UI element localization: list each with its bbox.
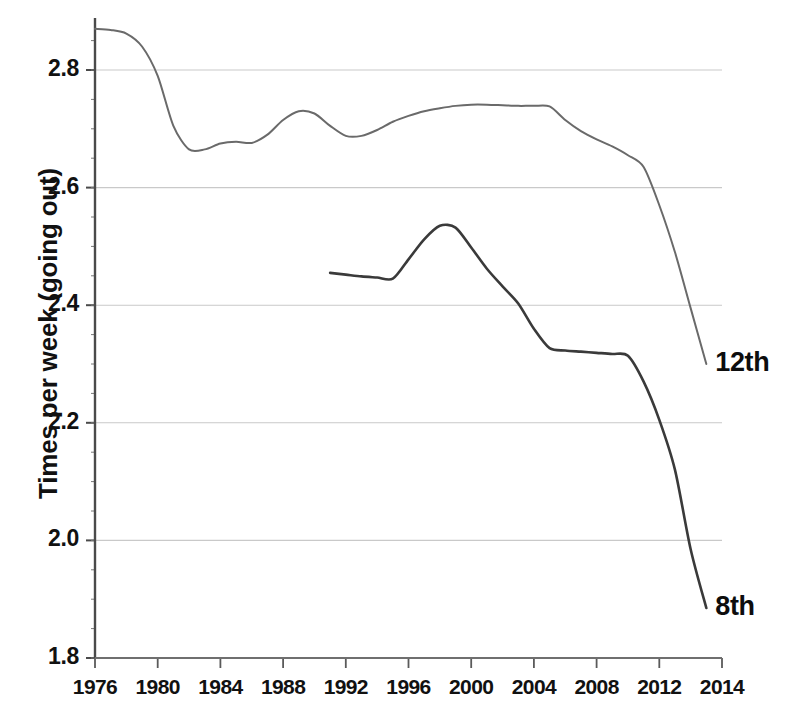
series-lines [95, 29, 706, 608]
y-tick-label: 2.4 [0, 290, 79, 317]
series-line-8th [330, 225, 706, 608]
y-tick-label: 1.8 [0, 643, 79, 670]
y-tick-label: 2.0 [0, 525, 79, 552]
y-tick-label: 2.2 [0, 408, 79, 435]
x-tick-label: 2014 [677, 675, 767, 699]
plot-area [0, 0, 812, 708]
line-chart: Times per week (going out) 1.82.02.22.42… [0, 0, 812, 708]
series-label-12th: 12th [715, 347, 769, 378]
y-tick-label: 2.8 [0, 55, 79, 82]
y-axis-ticks [86, 41, 95, 658]
series-label-8th: 8th [715, 591, 754, 622]
gridlines [95, 70, 722, 658]
series-line-12th [95, 29, 706, 364]
x-axis-ticks [95, 658, 722, 668]
y-tick-label: 2.6 [0, 173, 79, 200]
